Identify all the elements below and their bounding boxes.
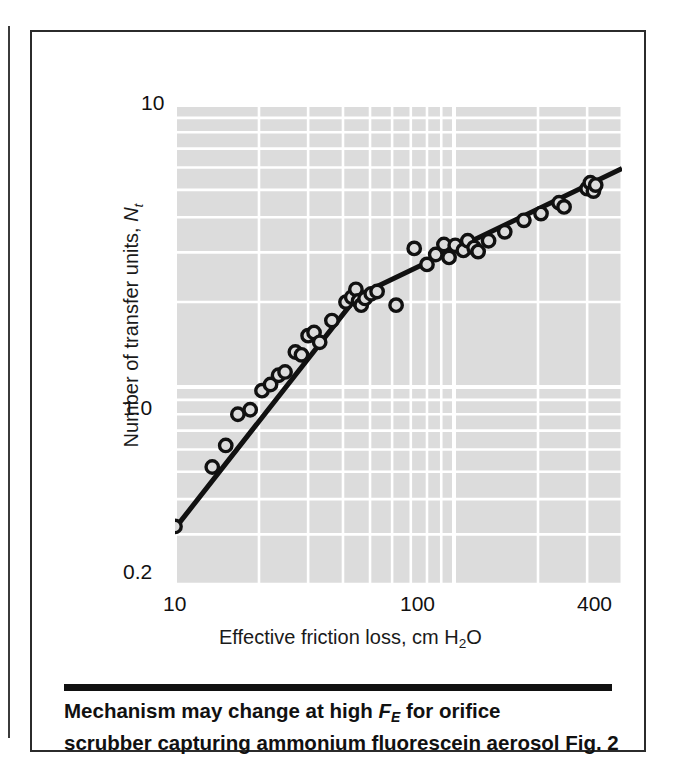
caption-symbol-f: F: [378, 699, 391, 722]
y-axis-title-subscript: t: [131, 204, 146, 208]
y-axis-title: Number of transfer units, Nt: [120, 106, 145, 546]
column-rule: [8, 26, 10, 738]
figure-container: 10 1.0 0.2 10 100 400 Effective friction…: [30, 30, 646, 752]
caption-line-1: Mechanism may change at high FE for orif…: [64, 697, 620, 727]
chart-plot-region: 10 1.0 0.2 10 100 400 Effective friction…: [145, 105, 622, 614]
x-axis-tick-10: 10: [163, 592, 186, 616]
plot-area: [175, 105, 622, 584]
caption-divider-rule: [64, 684, 612, 691]
x-axis-tick-400: 400: [577, 592, 612, 616]
x-axis-tick-100: 100: [400, 592, 435, 616]
y-axis-tick-02: 0.2: [123, 560, 152, 584]
x-axis-title: Effective friction loss, cm H2O: [219, 626, 482, 651]
caption-symbol-subscript: E: [391, 709, 400, 725]
caption-line-2: scrubber capturing ammonium fluorescein …: [64, 729, 620, 757]
y-axis-title-symbol: N: [120, 207, 142, 221]
figure-caption: Mechanism may change at high FE for orif…: [64, 697, 620, 758]
chart-data-layer: [175, 105, 622, 584]
